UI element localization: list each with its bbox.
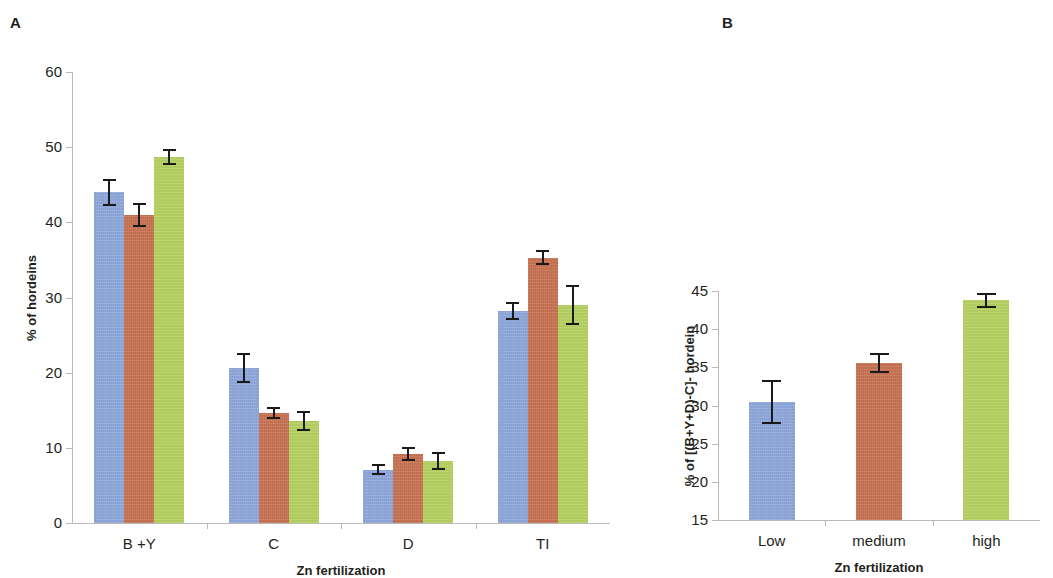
panel-b-y-axis-line <box>718 291 719 520</box>
panel-a-x-tick <box>476 523 477 529</box>
panel-b-y-tick-label: 30 <box>660 398 708 413</box>
panel-a-x-tick-label: D <box>341 536 476 551</box>
panel-a-error-cap-bottom <box>297 429 310 431</box>
panel-a-error-bar <box>163 149 176 166</box>
panel-b-y-tick <box>712 367 718 368</box>
panel-a-error-cap-top <box>163 149 176 151</box>
panel-b-y-tick <box>712 444 718 445</box>
panel-a-error-cap-top <box>372 464 385 466</box>
panel-a-bar-texture <box>423 461 453 523</box>
panel-a-error-cap-top <box>506 302 519 304</box>
panel-a-error-cap-bottom <box>267 417 280 419</box>
panel-a-error-cap-top <box>267 407 280 409</box>
panel-a-error-cap-bottom <box>506 318 519 320</box>
panel-a-error-cap-top <box>566 285 579 287</box>
panel-a-error-cap-top <box>133 203 146 205</box>
panel-a-y-tick-label: 10 <box>14 440 62 455</box>
panel-b-error-cap-top <box>762 380 781 382</box>
panel-a-error-cap-top <box>536 250 549 252</box>
panel-b-x-tick-label: medium <box>825 533 932 548</box>
panel-a-error-stem <box>108 179 110 206</box>
panel-a-bar <box>289 421 319 523</box>
panel-a-y-tick <box>66 147 72 148</box>
panel-a-error-stem <box>138 203 140 227</box>
panel-a-error-bar <box>267 407 280 419</box>
panel-a-x-axis-title: Zn fertilization <box>72 563 610 578</box>
panel-a-bar <box>94 192 124 523</box>
panel-a-y-tick-label: 0 <box>14 515 62 530</box>
panel-a-x-tick-label: TI <box>476 536 611 551</box>
panel-b-error-cap-top <box>870 353 889 355</box>
panel-a-y-tick <box>66 222 72 223</box>
panel-a-bar <box>558 305 588 523</box>
panel-a-error-stem <box>572 285 574 326</box>
panel-a-bar-texture <box>229 368 259 523</box>
panel-b-x-axis-line <box>718 520 1040 521</box>
panel-b-error-bar <box>977 293 996 308</box>
panel-b-error-cap-bottom <box>762 422 781 424</box>
panel-a-y-tick-label: 50 <box>14 139 62 154</box>
panel-b-chart: % of [(B+Y+D)-C]- hordein Zn fertilizati… <box>660 0 1053 574</box>
panel-a-y-tick <box>66 448 72 449</box>
panel-a-bar-texture <box>528 258 558 523</box>
panel-a-error-cap-bottom <box>133 225 146 227</box>
panel-a-bar <box>528 258 558 523</box>
panel-a-error-bar <box>536 250 549 265</box>
panel-a-bar <box>154 157 184 523</box>
panel-a-error-bar <box>566 285 579 326</box>
panel-a-bar <box>363 470 393 523</box>
panel-a-error-bar <box>402 447 415 461</box>
panel-a-bar <box>259 413 289 523</box>
panel-a-bar <box>124 215 154 523</box>
panel-a-y-tick <box>66 523 72 524</box>
panel-a-error-cap-top <box>432 452 445 454</box>
panel-a-y-tick-label: 60 <box>14 64 62 79</box>
panel-a-bar <box>393 454 423 523</box>
panel-a-error-cap-top <box>103 179 116 181</box>
panel-a-error-cap-bottom <box>372 473 385 475</box>
panel-a-bar-texture <box>289 421 319 523</box>
panel-a-bar-texture <box>154 157 184 523</box>
panel-a-bar <box>498 311 528 523</box>
panel-a-y-tick <box>66 373 72 374</box>
panel-b-bar <box>963 300 1009 520</box>
panel-b-bar <box>856 363 902 520</box>
panel-b-x-tick <box>933 520 934 526</box>
panel-a-error-bar <box>103 179 116 206</box>
panel-a-x-tick-label: B +Y <box>72 536 207 551</box>
panel-a-bar-texture <box>498 311 528 523</box>
panel-b-x-axis-title: Zn fertilization <box>718 560 1040 575</box>
panel-b-x-tick <box>825 520 826 526</box>
panel-a-y-tick-label: 20 <box>14 365 62 380</box>
panel-a-x-tick <box>341 523 342 529</box>
panel-a-bar-texture <box>259 413 289 523</box>
panel-a-bar <box>423 461 453 523</box>
panel-a-bar-texture <box>393 454 423 523</box>
panel-b-y-tick <box>712 482 718 483</box>
panel-a-bar-texture <box>94 192 124 523</box>
panel-a-error-bar <box>506 302 519 320</box>
panel-a-error-cap-top <box>297 411 310 413</box>
panel-a-error-cap-top <box>402 447 415 449</box>
panel-b-y-tick <box>712 329 718 330</box>
panel-b-error-cap-bottom <box>977 306 996 308</box>
panel-b-y-tick <box>712 520 718 521</box>
panel-a-bar <box>229 368 259 523</box>
panel-a-error-cap-bottom <box>432 468 445 470</box>
panel-b-error-cap-top <box>977 293 996 295</box>
panel-a-bar-texture <box>124 215 154 523</box>
panel-a-error-cap-bottom <box>402 459 415 461</box>
panel-b-y-tick-label: 20 <box>660 474 708 489</box>
panel-a-error-bar <box>133 203 146 227</box>
panel-b-error-stem <box>771 380 773 424</box>
panel-a-error-bar <box>237 353 250 383</box>
panel-a-x-tick-label: C <box>207 536 342 551</box>
panel-a-error-cap-bottom <box>163 163 176 165</box>
panel-b-y-tick-label: 25 <box>660 436 708 451</box>
panel-a-bar-texture <box>558 305 588 523</box>
panel-a-y-tick <box>66 298 72 299</box>
panel-a-error-bar <box>372 464 385 475</box>
panel-b-y-tick-label: 35 <box>660 359 708 374</box>
panel-a-error-cap-bottom <box>237 381 250 383</box>
panel-b-x-tick-label: Low <box>718 533 825 548</box>
